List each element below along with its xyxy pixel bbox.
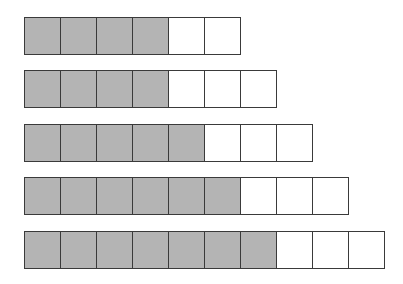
unshaded-cell	[204, 124, 241, 162]
shaded-cell	[24, 231, 61, 269]
shaded-cell	[24, 124, 61, 162]
unshaded-cell	[204, 17, 241, 55]
fraction-strip-1	[24, 17, 240, 54]
shaded-cell	[96, 17, 133, 55]
shaded-cell	[168, 231, 205, 269]
shaded-cell	[204, 177, 241, 215]
unshaded-cell	[276, 231, 313, 269]
unshaded-cell	[276, 124, 313, 162]
unshaded-cell	[168, 70, 205, 108]
shaded-cell	[24, 70, 61, 108]
shaded-cell	[132, 17, 169, 55]
shaded-cell	[132, 70, 169, 108]
shaded-cell	[132, 124, 169, 162]
shaded-cell	[60, 17, 97, 55]
shaded-cell	[60, 124, 97, 162]
shaded-cell	[60, 177, 97, 215]
shaded-cell	[60, 231, 97, 269]
fraction-strip-4	[24, 177, 348, 214]
shaded-cell	[24, 17, 61, 55]
unshaded-cell	[240, 177, 277, 215]
shaded-cell	[96, 70, 133, 108]
shaded-cell	[204, 231, 241, 269]
shaded-cell	[132, 231, 169, 269]
unshaded-cell	[312, 231, 349, 269]
shaded-cell	[60, 70, 97, 108]
shaded-cell	[96, 124, 133, 162]
unshaded-cell	[240, 124, 277, 162]
fraction-strip-2	[24, 70, 276, 107]
shaded-cell	[168, 177, 205, 215]
fraction-strip-5	[24, 231, 384, 268]
shaded-cell	[24, 177, 61, 215]
fraction-strip-3	[24, 124, 312, 161]
unshaded-cell	[348, 231, 385, 269]
shaded-cell	[96, 177, 133, 215]
shaded-cell	[132, 177, 169, 215]
unshaded-cell	[204, 70, 241, 108]
unshaded-cell	[168, 17, 205, 55]
shaded-cell	[96, 231, 133, 269]
shaded-cell	[168, 124, 205, 162]
unshaded-cell	[276, 177, 313, 215]
unshaded-cell	[312, 177, 349, 215]
shaded-cell	[240, 231, 277, 269]
unshaded-cell	[240, 70, 277, 108]
